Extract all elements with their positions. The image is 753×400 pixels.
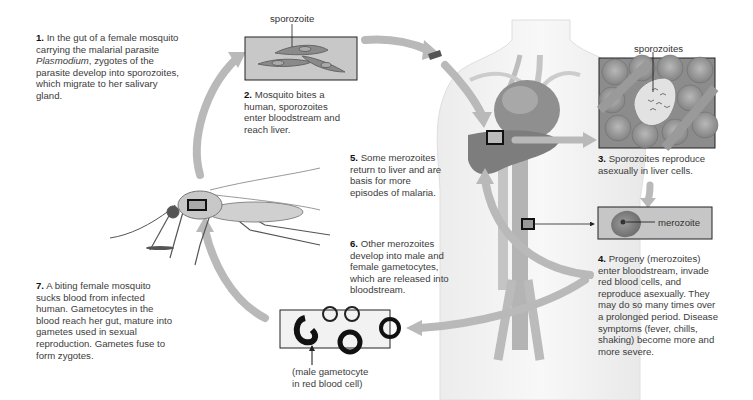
label-merozoite: merozoite [658, 217, 700, 228]
step-2-description: 2. Mosquito bites a human, sporozoites e… [244, 89, 344, 135]
gametocyte-caption-line1: (male gametocyte [292, 366, 402, 378]
gametocyte-caption-line2: in red blood cell) [292, 378, 402, 390]
step-1-description: 1. In the gut of a female mosquito carry… [36, 32, 181, 102]
blood-zoom-marker [522, 219, 534, 229]
panel-gametocyte [280, 307, 399, 365]
label-sporozoites: sporozoites [634, 43, 683, 54]
gametocyte-caption: (male gametocyte in red blood cell) [292, 366, 402, 389]
step-6-description: 6. Other merozoites develop into male an… [350, 238, 460, 296]
step-7-description: 7. A biting female mosquito sucks blood … [36, 280, 176, 361]
step-3-description: 3. Sporozoites reproduce asexually in li… [598, 153, 723, 176]
liver-zoom-marker [487, 131, 503, 144]
step-4-description: 4. Progeny (merozoites) enter bloodstrea… [598, 253, 723, 357]
label-sporozoite: sporozoite [270, 13, 314, 24]
step-5-description: 5. Some merozoites return to liver and a… [350, 152, 450, 198]
panel-liver-cells [599, 52, 718, 148]
panel-sporozoites [245, 24, 357, 80]
mosquito-illustration [110, 168, 330, 265]
